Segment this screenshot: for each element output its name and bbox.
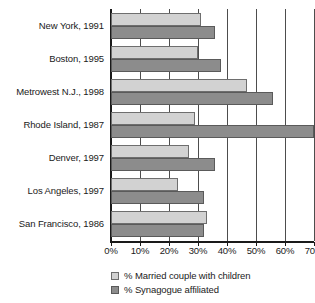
legend-item: % Synagogue affiliated [111,284,250,296]
x-tick-label: 20% [155,245,183,256]
category-label: Los Angeles, 1997 [0,186,104,196]
bar-group [111,79,314,105]
bar-group [111,13,314,39]
bar [111,59,221,72]
bar [111,13,201,26]
category-label: Metrowest N.J., 1998 [0,87,104,97]
bar-group [111,46,314,72]
legend-swatch [111,286,119,294]
bar [111,92,273,105]
category-label: Rhode Island, 1987 [0,120,104,130]
gridline [314,9,315,241]
legend-label: % Synagogue affiliated [124,284,219,296]
x-tick-label: 0% [97,245,125,256]
bar-group [111,211,314,237]
legend-swatch [111,272,119,280]
bar [111,46,198,59]
bar [111,79,247,92]
category-label: Boston, 1995 [0,54,104,64]
bar [111,211,207,224]
bar-group [111,145,314,171]
bar [111,191,204,204]
category-label: San Francisco, 1986 [0,219,104,229]
bar [111,145,189,158]
x-tick-label: 30% [184,245,212,256]
bar [111,125,314,138]
category-label: New York, 1991 [0,21,104,31]
x-tick-label: 40% [213,245,241,256]
bar [111,158,215,171]
x-tick-label: 10% [126,245,154,256]
legend-label: % Married couple with children [124,270,250,282]
plot-area [111,9,314,241]
x-tick-label: 50% [242,245,270,256]
bar [111,26,215,39]
bar [111,112,195,125]
bar [111,224,204,237]
legend-item: % Married couple with children [111,270,250,282]
bar-group [111,178,314,204]
x-tick-label: 60% [271,245,299,256]
chart-legend: % Married couple with children% Synagogu… [111,270,250,298]
bar-chart: 0%10%20%30%40%50%60%70% New York, 1991Bo… [0,0,315,303]
bar-group [111,112,314,138]
bar [111,178,178,191]
x-tick-label: 70% [300,245,315,256]
category-label: Denver, 1997 [0,153,104,163]
